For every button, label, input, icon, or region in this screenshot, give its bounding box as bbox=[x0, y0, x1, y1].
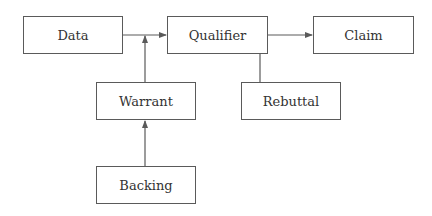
node-data-label: Data bbox=[57, 28, 88, 43]
node-claim-label: Claim bbox=[344, 28, 382, 43]
node-warrant: Warrant bbox=[96, 82, 196, 120]
node-qualifier: Qualifier bbox=[167, 16, 268, 54]
node-rebuttal-label: Rebuttal bbox=[263, 94, 320, 109]
node-warrant-label: Warrant bbox=[119, 94, 173, 109]
node-rebuttal: Rebuttal bbox=[241, 82, 341, 120]
node-data: Data bbox=[23, 16, 123, 54]
toulmin-diagram: Data Qualifier Claim Warrant Rebuttal Ba… bbox=[0, 0, 432, 216]
node-qualifier-label: Qualifier bbox=[189, 28, 247, 43]
node-backing: Backing bbox=[96, 166, 196, 204]
node-backing-label: Backing bbox=[119, 178, 172, 193]
node-claim: Claim bbox=[313, 16, 414, 54]
